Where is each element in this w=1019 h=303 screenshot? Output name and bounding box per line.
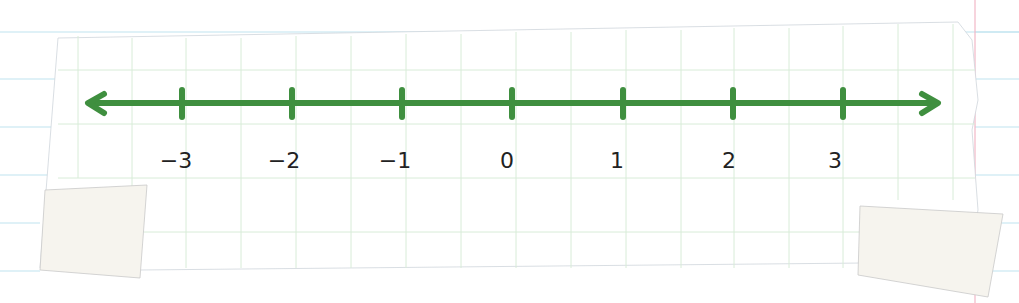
tick-label: −3 [160,148,192,173]
tick-label: 2 [722,148,736,173]
number-line-diagram: −3 −2 −1 0 1 2 3 [0,0,1019,303]
tape-right [858,206,1003,297]
number-line-sheet: −3 −2 −1 0 1 2 3 [0,0,1019,303]
tick-label: 3 [828,148,842,173]
tick-label: −2 [268,148,300,173]
tick-label: 0 [500,148,514,173]
tape-left [40,185,147,278]
tick-label: 1 [610,148,624,173]
tick-label: −1 [379,148,411,173]
graph-paper [40,22,978,270]
